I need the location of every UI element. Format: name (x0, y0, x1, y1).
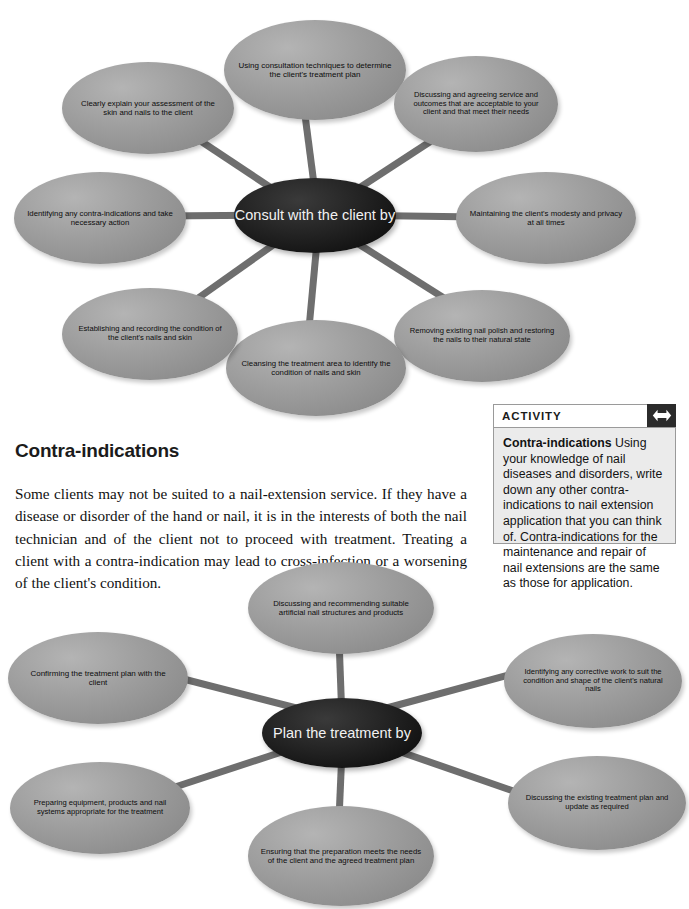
diagram-plan-the-treatment: Plan the treatment by Discussing and rec… (0, 550, 689, 909)
diagram-node-label: Establishing and recording the condition… (74, 325, 226, 343)
activity-box: ACTIVITY Contra-indications Using your k… (493, 404, 676, 544)
diagram-node-preparation-meets-needs: Ensuring that the preparation meets the … (248, 806, 434, 906)
diagram-node-label: Cleansing the treatment area to identify… (238, 359, 394, 377)
page-section-heading: Contra-indications (15, 440, 179, 462)
diagram-center-plan: Plan the treatment by (262, 698, 422, 768)
diagram-node-label: Using consultation techniques to determi… (236, 61, 394, 80)
diagram-center-label: Plan the treatment by (273, 725, 411, 741)
activity-box-body: Contra-indications Using your knowledge … (494, 428, 675, 598)
diagram-node-corrective-work: Identifying any corrective work to suit … (504, 634, 682, 728)
activity-body-text: Using your knowledge of nail diseases an… (503, 436, 662, 590)
double-arrow-icon (647, 404, 676, 427)
activity-box-title: ACTIVITY (502, 410, 562, 422)
diagram-node-label: Identifying any corrective work to suit … (516, 668, 670, 695)
diagram-node-preparing-equipment: Preparing equipment, products and nail s… (10, 762, 190, 854)
diagram-node-label: Discussing and recommending suitable art… (260, 599, 422, 617)
diagram-node-label: Maintaining the client's modesty and pri… (468, 209, 624, 227)
diagram-center-label: Consult with the client by (235, 206, 395, 224)
diagram-center-consult: Consult with the client by (234, 178, 396, 253)
diagram-node-label: Clearly explain your assessment of the s… (74, 99, 222, 117)
diagram-node-label: Preparing equipment, products and nail s… (22, 799, 178, 817)
diagram-node-recommending-structures: Discussing and recommending suitable art… (248, 562, 434, 654)
diagram-node-contra-indications: Identifying any contra-indications and t… (14, 172, 186, 264)
diagram-node-label: Ensuring that the preparation meets the … (260, 847, 422, 865)
diagram-node-removing-polish: Removing existing nail polish and restor… (394, 290, 570, 382)
diagram-node-establishing-recording: Establishing and recording the condition… (62, 288, 238, 380)
activity-body-title: Contra-indications (503, 436, 612, 450)
diagram-node-agreeing-service: Discussing and agreeing service and outc… (394, 56, 558, 152)
diagram-node-cleansing-treatment-area: Cleansing the treatment area to identify… (226, 320, 406, 416)
diagram-node-explain-assessment: Clearly explain your assessment of the s… (62, 62, 234, 154)
diagram-node-label: Discussing and agreeing service and outc… (406, 91, 546, 118)
diagram-node-modesty-privacy: Maintaining the client's modesty and pri… (456, 172, 636, 264)
diagram-node-confirming-plan: Confirming the treatment plan with the c… (8, 632, 188, 724)
activity-box-header: ACTIVITY (494, 405, 675, 428)
diagram-node-label: Confirming the treatment plan with the c… (20, 669, 176, 688)
diagram-node-label: Discussing the existing treatment plan a… (520, 794, 674, 812)
diagram-node-consultation-techniques: Using consultation techniques to determi… (224, 20, 406, 120)
diagram-node-label: Removing existing nail polish and restor… (406, 327, 558, 345)
diagram-node-existing-treatment-plan: Discussing the existing treatment plan a… (508, 756, 686, 850)
diagram-node-label: Identifying any contra-indications and t… (26, 209, 174, 227)
diagram-consult-with-client: Consult with the client by Using consult… (0, 0, 689, 420)
